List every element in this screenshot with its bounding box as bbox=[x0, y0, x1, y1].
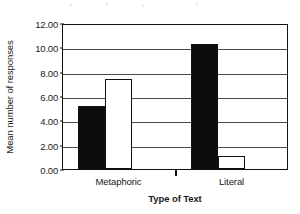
y-axis-tick-label: 12.00 bbox=[35, 19, 58, 30]
x-axis-tick-labels: MetaphoricLiteral bbox=[62, 176, 288, 190]
x-axis-title: Type of Text bbox=[62, 193, 288, 204]
plot-area bbox=[62, 24, 288, 170]
y-axis-tick-label: 6.00 bbox=[40, 92, 58, 103]
scan-artifact bbox=[55, 1, 255, 9]
y-axis-title: Mean number of responses bbox=[2, 24, 16, 170]
y-axis-tick-label: 10.00 bbox=[35, 43, 58, 54]
bar-chart-figure: Mean number of responses 0.002.004.006.0… bbox=[0, 0, 300, 214]
x-axis-tick-label: Literal bbox=[219, 176, 244, 187]
y-axis-tick-label: 0.00 bbox=[40, 165, 58, 176]
y-axis-tick-label: 4.00 bbox=[40, 116, 58, 127]
y-axis-tick-label: 8.00 bbox=[40, 67, 58, 78]
y-axis-tick-labels: 0.002.004.006.008.0010.0012.00 bbox=[16, 24, 60, 170]
bar-series-group bbox=[63, 25, 287, 169]
y-axis-title-text: Mean number of responses bbox=[4, 40, 15, 153]
bar-metaphoric-white bbox=[105, 79, 132, 169]
bar-metaphoric-black bbox=[78, 106, 105, 169]
y-axis-tick-label: 2.00 bbox=[40, 140, 58, 151]
bar-literal-white bbox=[218, 156, 245, 169]
bar-literal-black bbox=[191, 44, 218, 169]
x-axis-tick-label: Metaphoric bbox=[96, 176, 142, 187]
